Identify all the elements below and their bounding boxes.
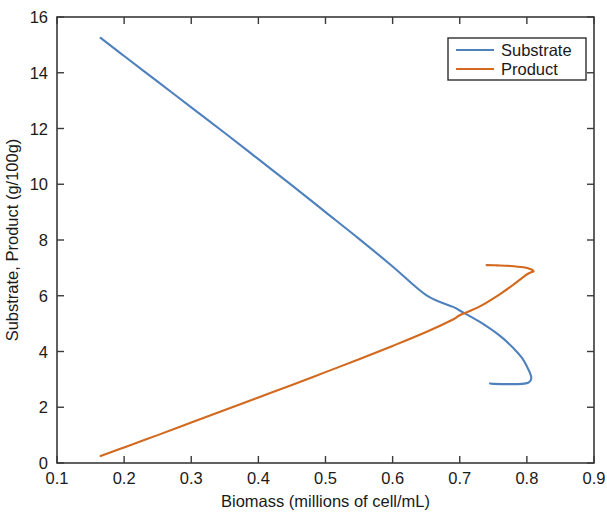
legend-label-substrate: Substrate bbox=[501, 41, 572, 59]
y-axis-label: Substrate, Product (g/100g) bbox=[3, 139, 21, 342]
x-tick-label-1: 0.2 bbox=[113, 469, 136, 487]
x-tick-label-4: 0.5 bbox=[314, 469, 337, 487]
y-tick-labels: 0246810121416 bbox=[30, 8, 48, 472]
plot-box-frame bbox=[57, 17, 594, 463]
y-tick-label-2: 4 bbox=[39, 343, 48, 361]
y-tick-label-0: 0 bbox=[39, 454, 48, 472]
x-tick-label-0: 0.1 bbox=[46, 469, 69, 487]
figure-container: 0.10.20.30.40.50.60.70.80.9 024681012141… bbox=[0, 0, 607, 512]
series-line-substrate bbox=[101, 38, 532, 384]
x-tick-label-5: 0.6 bbox=[381, 469, 404, 487]
x-tick-label-8: 0.9 bbox=[583, 469, 606, 487]
data-series bbox=[101, 38, 534, 456]
chart-canvas: 0.10.20.30.40.50.60.70.80.9 024681012141… bbox=[0, 0, 607, 512]
x-tick-labels: 0.10.20.30.40.50.60.70.80.9 bbox=[46, 469, 606, 487]
y-tick-label-8: 16 bbox=[30, 8, 48, 26]
series-line-product bbox=[101, 265, 534, 456]
y-tick-label-5: 10 bbox=[30, 175, 48, 193]
axes-frame bbox=[57, 17, 594, 463]
legend-label-product: Product bbox=[501, 60, 558, 78]
legend: SubstrateProduct bbox=[448, 38, 586, 80]
y-tick-label-3: 6 bbox=[39, 287, 48, 305]
y-tick-label-4: 8 bbox=[39, 231, 48, 249]
y-tick-label-1: 2 bbox=[39, 398, 48, 416]
x-tick-label-2: 0.3 bbox=[180, 469, 203, 487]
x-tick-label-7: 0.8 bbox=[515, 469, 538, 487]
y-tick-label-7: 14 bbox=[30, 64, 48, 82]
x-tick-label-6: 0.7 bbox=[448, 469, 471, 487]
x-axis-label: Biomass (millions of cell/mL) bbox=[221, 492, 430, 510]
x-tick-label-3: 0.4 bbox=[247, 469, 270, 487]
y-tick-label-6: 12 bbox=[30, 120, 48, 138]
tick-marks bbox=[57, 17, 594, 463]
